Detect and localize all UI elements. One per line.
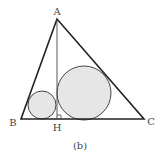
label-b: B [9, 117, 16, 128]
triangle-diagram: A B C H (b) [0, 0, 161, 159]
figure-caption: (b) [73, 140, 87, 151]
label-h: H [53, 122, 62, 133]
label-a: A [52, 6, 61, 17]
large-inscribed-circle [57, 66, 111, 120]
label-c: C [147, 116, 155, 127]
small-inscribed-circle [28, 91, 56, 119]
